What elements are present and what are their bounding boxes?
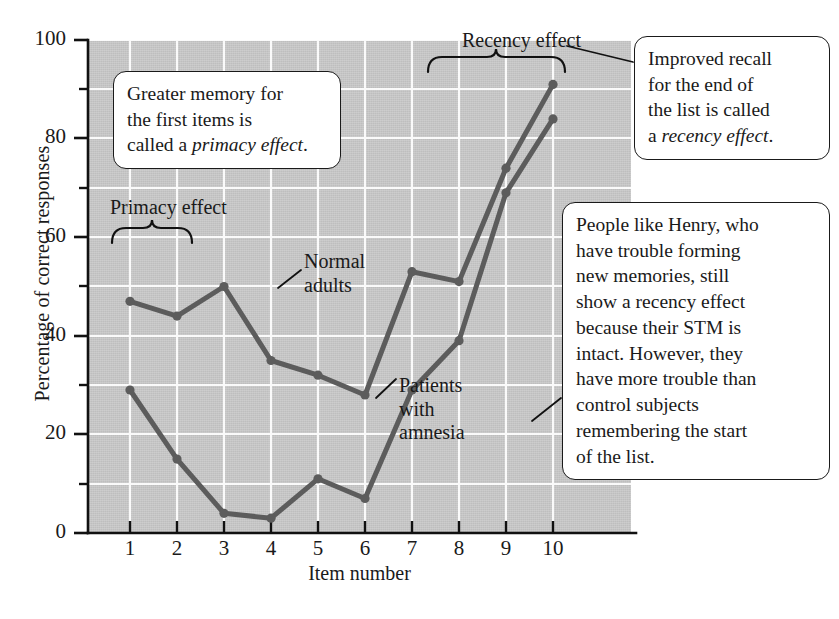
callout-recency-line1: Improved recall (648, 48, 772, 69)
data-point (125, 385, 134, 394)
callout-primacy-line3-italic: primacy effect (192, 134, 303, 155)
x-axis-ticks (130, 521, 553, 533)
callout-henry-line4: show a recency effect (576, 291, 745, 312)
callout-primacy-line3-suffix: . (303, 134, 308, 155)
x-tick-label-6: 6 (345, 536, 385, 561)
data-point (501, 188, 510, 197)
chart-figure: Percentage of correct responses Item num… (0, 0, 839, 619)
y-tick-label-40: 40 (4, 322, 66, 347)
y-tick-label-0: 0 (4, 519, 66, 544)
callout-henry-line7: have more trouble than (576, 368, 756, 389)
series-label-patients-amnesia: Patients with amnesia (399, 374, 509, 445)
callout-recency-line4-prefix: a (648, 125, 662, 146)
data-point (313, 371, 322, 380)
callout-primacy-effect: Greater memory for the first items is ca… (113, 71, 341, 169)
y-tick-label-20: 20 (4, 420, 66, 445)
series-label-normal-adults-line2: adults (304, 274, 352, 296)
x-tick-label-4: 4 (251, 536, 291, 561)
callout-primacy-line2: the first items is (127, 109, 252, 130)
callout-henry-amnesia: People like Henry, who have trouble form… (562, 202, 830, 480)
callout-henry-line1: People like Henry, who (576, 214, 759, 235)
x-tick-label-10: 10 (533, 536, 573, 561)
x-tick-label-2: 2 (157, 536, 197, 561)
x-tick-label-9: 9 (486, 536, 526, 561)
callout-recency-effect: Improved recall for the end of the list … (634, 36, 830, 160)
series-label-patients-line3: amnesia (399, 421, 465, 443)
data-point (172, 455, 181, 464)
x-tick-label-7: 7 (392, 536, 432, 561)
data-point (501, 164, 510, 173)
data-point (454, 336, 463, 345)
callout-recency-line3: the list is called (648, 99, 770, 120)
callout-henry-line2: have trouble forming (576, 240, 741, 261)
data-point (219, 282, 228, 291)
y-tick-label-80: 80 (4, 124, 66, 149)
x-axis-title: Item number (88, 562, 631, 585)
data-point (219, 509, 228, 518)
y-axis-minor-ticks (79, 89, 88, 484)
y-tick-label-100: 100 (4, 26, 66, 51)
primacy-brace (112, 220, 192, 243)
callout-recency-line4-suffix: . (769, 125, 774, 146)
series-label-normal-adults: Normal adults (304, 250, 414, 297)
primacy-effect-label: Primacy effect (110, 196, 227, 219)
data-point (360, 390, 369, 399)
data-point (454, 277, 463, 286)
callout-henry-line5: because their STM is (576, 317, 741, 338)
data-point (266, 514, 275, 523)
series-label-normal-adults-line1: Normal (304, 250, 365, 272)
data-point (125, 297, 134, 306)
series-patients-amnesia (125, 114, 557, 523)
series-label-patients-line1: Patients (399, 374, 462, 396)
data-point (548, 80, 557, 89)
recency-effect-label: Recency effect (462, 29, 581, 52)
callout-henry-line8: control subjects (576, 394, 699, 415)
callout-recency-line4-italic: recency effect (662, 125, 769, 146)
callout-primacy-line3-prefix: called a (127, 134, 192, 155)
callout-henry-line9: remembering the start (576, 420, 747, 441)
y-tick-label-60: 60 (4, 223, 66, 248)
callout-primacy-line1: Greater memory for (127, 83, 283, 104)
callout-recency-line2: for the end of (648, 74, 754, 95)
x-tick-label-1: 1 (110, 536, 150, 561)
leader-patients (376, 379, 396, 398)
series-line (130, 119, 553, 518)
series-label-patients-line2: with (399, 398, 435, 420)
data-point (548, 114, 557, 123)
callout-henry-line6: intact. However, they (576, 343, 743, 364)
data-point (360, 494, 369, 503)
callout-henry-line10: of the list. (576, 446, 655, 467)
callout-henry-line3: new memories, still (576, 265, 729, 286)
data-point (266, 356, 275, 365)
leader-henry-callout (532, 398, 561, 421)
recency-brace (428, 49, 565, 72)
data-point (172, 312, 181, 321)
x-tick-label-8: 8 (439, 536, 479, 561)
x-tick-label-3: 3 (204, 536, 244, 561)
x-tick-label-5: 5 (298, 536, 338, 561)
data-point (313, 474, 322, 483)
